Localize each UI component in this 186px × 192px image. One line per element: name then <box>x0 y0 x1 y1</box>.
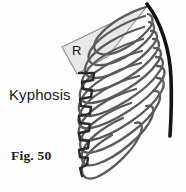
kyphosis-figure: R Kyphosis Fig. 50 <box>0 0 186 192</box>
figure-caption: Fig. 50 <box>11 148 51 164</box>
rib-9 <box>80 91 160 153</box>
rib-10 <box>82 106 154 166</box>
kyphosis-label: Kyphosis <box>9 86 71 103</box>
wedge-label-r: R <box>72 43 81 58</box>
